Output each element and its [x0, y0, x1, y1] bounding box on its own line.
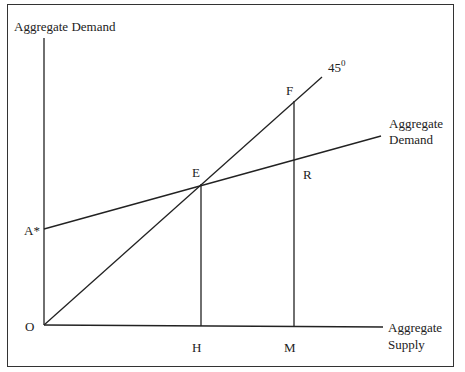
- origin-label: O: [25, 319, 34, 334]
- point-m-label: M: [284, 340, 296, 355]
- 45-degree-line: [44, 77, 322, 325]
- point-r-label: R: [303, 167, 312, 182]
- x-axis-label-line2: Supply: [388, 337, 425, 352]
- keynesian-cross-diagram: Aggregate Demand 450 F Aggregate Demand …: [0, 0, 465, 372]
- intercept-label: A*: [24, 223, 40, 238]
- line-45-label: 450: [328, 58, 346, 75]
- ad-curve-label-line1: Aggregate: [389, 116, 443, 131]
- aggregate-demand-line: [44, 136, 381, 229]
- y-axis-label: Aggregate Demand: [14, 19, 116, 34]
- x-axis-label-line1: Aggregate: [388, 320, 442, 335]
- x-axis: [44, 325, 383, 327]
- point-e-label: E: [192, 165, 200, 180]
- point-f-label: F: [286, 83, 293, 98]
- ad-curve-label-line2: Demand: [389, 132, 434, 147]
- point-h-label: H: [192, 340, 201, 355]
